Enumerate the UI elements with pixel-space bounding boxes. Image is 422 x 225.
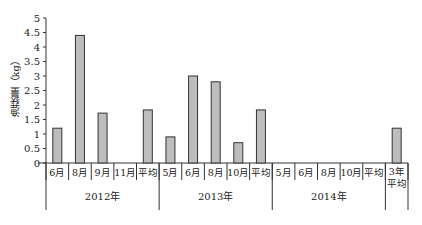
chart-canvas: 00.511.522.533.544.556月8月9月11月平均5月6月8月10… bbox=[0, 0, 422, 225]
x-tick-label: 平均 bbox=[387, 178, 407, 189]
y-tick-label: 4 bbox=[34, 42, 40, 53]
x-tick-label: 5月 bbox=[162, 167, 178, 178]
x-tick-label: 平均 bbox=[251, 167, 271, 178]
bar-chart: 渔获量（kg） 00.511.522.533.544.556月8月9月11月平均… bbox=[0, 0, 422, 225]
x-tick-label: 6月 bbox=[185, 167, 201, 178]
y-tick-label: 2.5 bbox=[24, 85, 40, 96]
y-tick-label: 0.5 bbox=[24, 143, 40, 154]
x-tick-label: 8月 bbox=[208, 167, 224, 178]
x-tick-label: 3年 bbox=[389, 166, 405, 177]
bar bbox=[143, 110, 152, 163]
x-tick-label: 6月 bbox=[49, 167, 65, 178]
x-group-label: 2014年 bbox=[311, 190, 346, 202]
y-tick-label: 5 bbox=[34, 13, 40, 24]
bar bbox=[98, 113, 107, 163]
x-tick-label: 11月 bbox=[114, 167, 136, 178]
y-tick-label: 3.5 bbox=[24, 56, 40, 67]
x-tick-label: 9月 bbox=[95, 167, 111, 178]
bar bbox=[256, 110, 265, 163]
x-tick-label: 8月 bbox=[72, 167, 88, 178]
y-tick-label: 1 bbox=[34, 129, 40, 140]
y-axis-label: 渔获量（kg） bbox=[8, 55, 22, 117]
bar bbox=[392, 128, 401, 163]
x-tick-label: 10月 bbox=[340, 167, 362, 178]
x-tick-label: 平均 bbox=[138, 167, 158, 178]
y-tick-label: 2 bbox=[34, 100, 40, 111]
bar bbox=[234, 143, 243, 163]
bar bbox=[53, 128, 62, 163]
y-tick-label: 3 bbox=[34, 71, 40, 82]
x-tick-label: 6月 bbox=[298, 167, 314, 178]
x-tick-label: 8月 bbox=[321, 167, 337, 178]
y-tick-label: 4.5 bbox=[24, 27, 40, 38]
x-tick-label: 5月 bbox=[276, 167, 292, 178]
x-group-label: 2013年 bbox=[198, 190, 233, 202]
bar bbox=[75, 35, 84, 163]
bar bbox=[189, 76, 198, 163]
bar bbox=[211, 82, 220, 163]
y-tick-label: 1.5 bbox=[24, 114, 40, 125]
x-tick-label: 平均 bbox=[364, 167, 384, 178]
bar bbox=[166, 137, 175, 163]
x-tick-label: 10月 bbox=[227, 167, 249, 178]
x-group-label: 2012年 bbox=[85, 190, 120, 202]
